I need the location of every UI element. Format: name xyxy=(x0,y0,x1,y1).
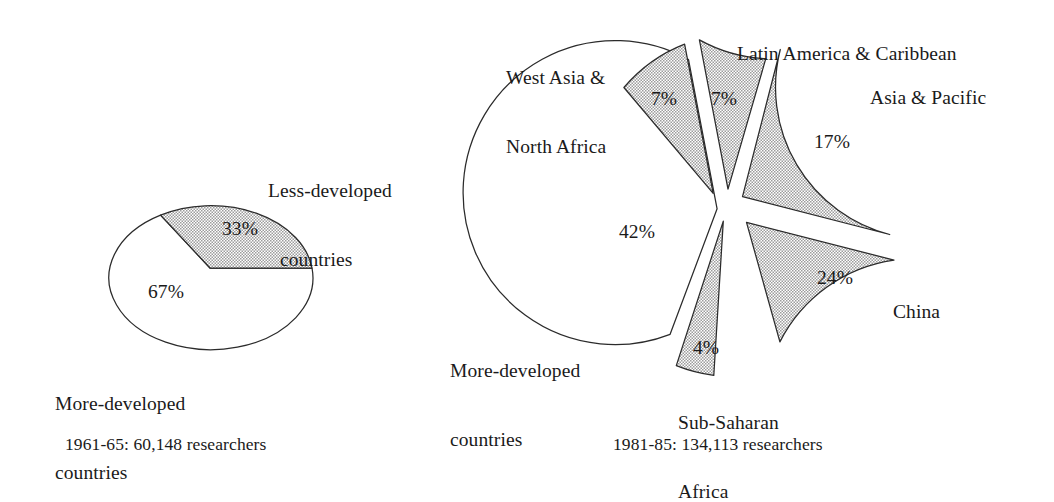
right-label-west-asia-north-africa: West Asia & North Africa xyxy=(506,20,606,204)
left-label-more-developed-line2: countries xyxy=(55,461,185,484)
right-label-west-asia-north-africa-line1: West Asia & xyxy=(506,66,606,89)
right-label-sub-saharan-africa-line1: Sub-Saharan xyxy=(678,411,779,434)
left-label-less-developed: Less-developed countries xyxy=(268,133,392,317)
right-value-west-asia-north-africa: 7% xyxy=(651,87,677,110)
right-value-more-developed: 42% xyxy=(619,220,655,243)
right-chart-caption: 1981-85: 134,113 researchers xyxy=(613,434,823,455)
right-label-more-developed-line2: countries xyxy=(450,428,580,451)
right-label-more-developed-line1: More-developed xyxy=(450,359,580,382)
right-label-asia-pacific: Asia & Pacific xyxy=(870,86,986,109)
left-label-less-developed-line1: Less-developed xyxy=(268,179,392,202)
left-label-less-developed-line2: countries xyxy=(280,248,392,271)
right-value-latin-america-caribbean: 7% xyxy=(711,87,737,110)
right-label-more-developed: More-developed countries xyxy=(450,313,580,497)
left-label-more-developed-line1: More-developed xyxy=(55,392,185,415)
left-chart-caption: 1961-65: 60,148 researchers xyxy=(65,434,266,455)
right-value-china: 24% xyxy=(817,266,853,289)
right-label-china: China xyxy=(893,300,940,323)
left-value-more-developed: 67% xyxy=(148,280,184,303)
right-value-sub-saharan-africa: 4% xyxy=(693,336,719,359)
right-label-west-asia-north-africa-line2: North Africa xyxy=(506,135,606,158)
right-value-asia-pacific: 17% xyxy=(814,130,850,153)
left-label-more-developed: More-developed countries xyxy=(55,346,185,502)
right-label-sub-saharan-africa-line2: Africa xyxy=(678,480,779,502)
right-label-latin-america-caribbean: Latin America & Caribbean xyxy=(737,42,957,65)
left-value-less-developed: 33% xyxy=(222,217,258,240)
